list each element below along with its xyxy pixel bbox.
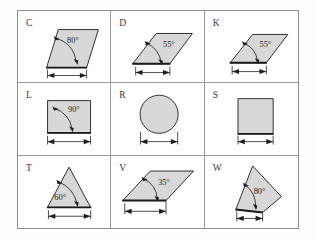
shape-figure-w: 80°	[205, 156, 298, 228]
shape-figure-s	[205, 83, 298, 154]
shape-figure-r	[111, 83, 203, 154]
shape-figure-t: 60°	[18, 156, 110, 228]
shape-cell-l[interactable]: L 90°	[18, 83, 111, 155]
shape-cell-c[interactable]: C 80°	[18, 11, 111, 83]
shape-cell-s[interactable]: S	[205, 83, 298, 155]
shape-figure-d: 55°	[111, 11, 203, 82]
angle-label-v: 35°	[158, 177, 170, 186]
shape-cell-v[interactable]: V 35°	[111, 156, 204, 228]
angle-label-l: 90°	[68, 106, 80, 115]
shape-cell-w[interactable]: W 80°	[205, 156, 298, 228]
shape-figure-l: 90°	[18, 83, 110, 154]
shape-code-chart: C 80° D	[0, 0, 315, 242]
shape-cell-k[interactable]: K 55°	[205, 11, 298, 83]
angle-label-k: 55°	[259, 40, 271, 49]
angle-label-t: 60°	[54, 192, 66, 201]
shape-figure-v: 35°	[111, 156, 203, 228]
angle-label-w: 80°	[253, 185, 265, 195]
shape-cell-t[interactable]: T 60°	[18, 156, 111, 228]
shape-cell-r[interactable]: R	[111, 83, 204, 155]
angle-label-c: 80°	[67, 36, 79, 45]
shape-cell-d[interactable]: D 55°	[111, 11, 204, 83]
shape-figure-k: 55°	[205, 11, 298, 82]
angle-label-d: 55°	[163, 40, 175, 49]
shape-grid: C 80° D	[17, 10, 299, 229]
shape-figure-c: 80°	[18, 11, 110, 82]
